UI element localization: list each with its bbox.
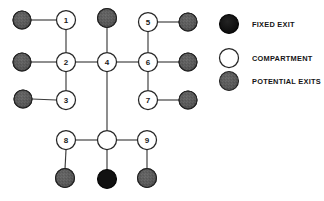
potential-exit-node[interactable] (13, 53, 31, 71)
compartment-circle (139, 53, 158, 72)
compartment-circle (139, 91, 158, 110)
potential-exit-node[interactable] (56, 169, 75, 188)
compartment-node-1[interactable]: 1 (57, 11, 76, 30)
compartment-circle (98, 53, 117, 72)
compartment-circle (138, 131, 157, 150)
legend-label: COMPARTMENT (252, 54, 313, 63)
compartment-circle (98, 131, 117, 150)
compartment-circle (139, 13, 158, 32)
exit-network-graph: 123456789 FIXED EXITCOMPARTMENTPOTENTIAL… (0, 0, 324, 201)
edge-p3-c3 (32, 99, 56, 100)
compartment-circle (57, 91, 76, 110)
fixed-exit-circle (220, 15, 239, 34)
potential-exit-node[interactable] (138, 169, 157, 188)
potential-exits-group (13, 9, 197, 188)
fixed-exit-node[interactable] (98, 170, 117, 189)
legend-compartment: COMPARTMENT (220, 49, 313, 68)
compartment-node-3[interactable]: 3 (57, 91, 76, 110)
fixed-exits-group (98, 170, 117, 189)
legend-group: FIXED EXITCOMPARTMENTPOTENTIAL EXITS (220, 15, 321, 91)
diagram-root: 123456789 FIXED EXITCOMPARTMENTPOTENTIAL… (0, 0, 324, 201)
compartment-node-7[interactable]: 7 (139, 91, 158, 110)
compartment-node-unlabeled[interactable] (98, 131, 117, 150)
legend-fixed-exit: FIXED EXIT (220, 15, 295, 34)
compartment-node-2[interactable]: 2 (57, 53, 76, 72)
potential-exit-node[interactable] (14, 90, 32, 108)
potential-exit-node[interactable] (179, 13, 197, 31)
edge-c8-p8 (65, 150, 66, 169)
compartment-circle (57, 131, 76, 150)
potential-exit-node[interactable] (13, 11, 31, 29)
potential-exit-node[interactable] (98, 9, 117, 28)
compartment-node-4[interactable]: 4 (98, 53, 117, 72)
compartment-node-9[interactable]: 9 (138, 131, 157, 150)
potential-exit-node[interactable] (179, 91, 197, 109)
compartment-circle (57, 11, 76, 30)
potential-exit-node[interactable] (179, 53, 197, 71)
compartment-node-5[interactable]: 5 (139, 13, 158, 32)
legend-label: POTENTIAL EXITS (252, 77, 321, 86)
legend-potential-exits: POTENTIAL EXITS (220, 72, 321, 91)
compartment-circle (220, 49, 239, 68)
compartment-circle (57, 53, 76, 72)
compartment-node-6[interactable]: 6 (139, 53, 158, 72)
compartment-node-8[interactable]: 8 (57, 131, 76, 150)
legend-label: FIXED EXIT (252, 20, 295, 29)
